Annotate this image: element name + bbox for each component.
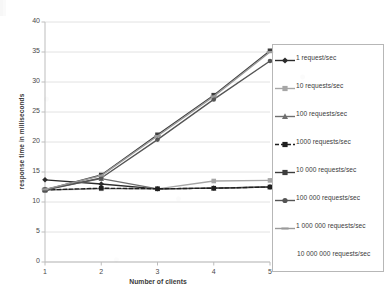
legend-marker-icon [275,192,295,203]
legend-marker-icon [275,220,295,231]
x-tick-label: 4 [206,268,222,275]
legend-item[interactable]: 1000 requests/sec [275,134,351,148]
legend-item[interactable]: 10 000 requests/sec [275,162,356,176]
legend-item-label: 1 request/sec [295,54,336,61]
legend-item[interactable]: 10 000 000 requests/sec [275,246,370,260]
x-tick-label: 2 [93,268,109,275]
legend-marker-icon [275,80,295,91]
series-line [43,49,273,193]
y-tick-label: 30 [20,77,40,84]
legend-item-label: 100 000 requests/sec [295,194,360,201]
y-tick-label: 20 [20,137,40,144]
legend-item[interactable]: 1 request/sec [275,50,336,64]
series-line [42,51,274,190]
data-series-layer [42,49,274,193]
legend-item[interactable]: 1 000 000 requests/sec [275,218,366,232]
legend-item-label: 10 requests/sec [295,82,343,89]
legend-marker-icon [275,108,295,119]
x-tick-label: 1 [37,268,53,275]
legend-item[interactable]: 10 requests/sec [275,78,343,92]
legend-item-label: 10 000 requests/sec [295,166,356,173]
y-tick-marks [42,22,46,262]
legend-marker-icon [275,136,295,147]
x-tick-label: 3 [150,268,166,275]
legend-item-label: 1 000 000 requests/sec [295,222,366,229]
chart-legend: 1 request/sec10 requests/sec100 requests… [272,44,384,272]
y-tick-label: 35 [20,47,40,54]
legend-item-label: 10 000 000 requests/sec [275,250,370,257]
y-tick-label: 40 [20,17,40,24]
legend-item-label: 1000 requests/sec [295,138,351,145]
legend-item[interactable]: 100 requests/sec [275,106,347,120]
legend-marker-icon [275,52,295,63]
x-tick-marks [45,262,270,266]
legend-marker-icon [275,164,295,175]
y-tick-label: 15 [20,167,40,174]
line-chart: response time in milliseconds Number of … [0,0,388,293]
y-tick-label: 0 [20,257,40,264]
legend-item[interactable]: 100 000 requests/sec [275,190,360,204]
y-tick-label: 25 [20,107,40,114]
y-tick-label: 10 [20,197,40,204]
x-axis-title: Number of clients [45,278,271,285]
legend-item-label: 100 requests/sec [295,110,347,117]
gridlines [45,22,270,262]
y-tick-label: 5 [20,227,40,234]
